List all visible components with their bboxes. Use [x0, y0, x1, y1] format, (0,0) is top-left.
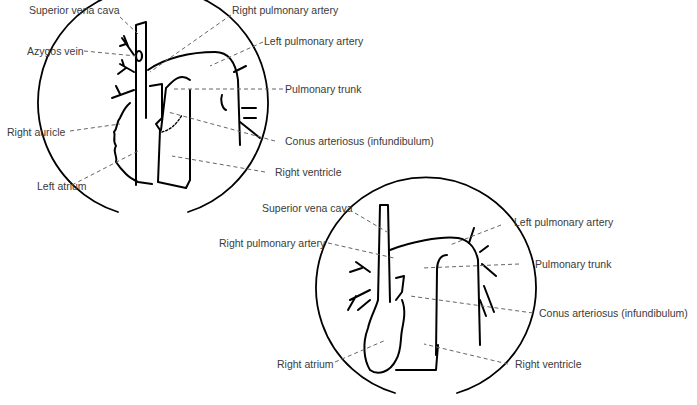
label-top-left-atrium: Left atrium	[37, 180, 87, 192]
label-bottom-right-pulmonary-artery: Right pulmonary artery	[219, 237, 325, 249]
right-atrium-outline	[364, 300, 404, 373]
label-top-azygos-vein: Azygos vein	[27, 45, 84, 57]
label-bottom-superior-vena-cava: Superior vena cava	[262, 202, 352, 214]
label-top-conus-arteriosus: Conus arteriosus (infundibulum)	[285, 135, 434, 147]
label-top-superior-vena-cava: Superior vena cava	[29, 4, 119, 16]
label-top-left-pulmonary-artery: Left pulmonary artery	[264, 35, 363, 47]
label-top-right-ventricle: Right ventricle	[275, 166, 342, 178]
label-top-pulmonary-trunk: Pulmonary trunk	[285, 83, 361, 95]
label-top-right-auricle: Right auricle	[7, 126, 65, 138]
label-bottom-right-ventricle: Right ventricle	[515, 358, 582, 370]
label-bottom-right-atrium: Right atrium	[277, 358, 334, 370]
label-top-right-pulmonary-artery: Right pulmonary artery	[232, 4, 338, 16]
label-bottom-left-pulmonary-artery: Left pulmonary artery	[514, 216, 613, 228]
label-bottom-pulmonary-trunk: Pulmonary trunk	[535, 258, 611, 270]
label-bottom-conus-arteriosus: Conus arteriosus (infundibulum)	[539, 307, 688, 319]
